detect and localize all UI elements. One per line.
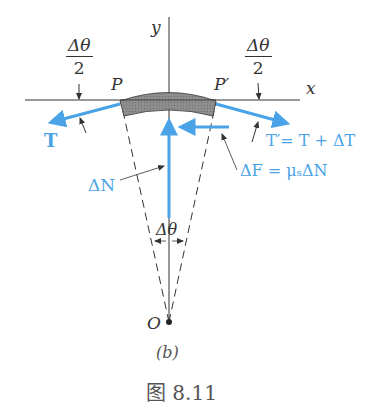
- figure-caption: 图 8.11: [146, 383, 217, 403]
- normal-force-leader: [120, 166, 164, 180]
- point-O-label: O: [147, 315, 161, 332]
- radial-line-right: [169, 102, 216, 322]
- half-angle-label-left: Δθ 2: [66, 37, 93, 77]
- tension-T-arrow: [52, 104, 120, 122]
- origin-point: [166, 319, 172, 325]
- x-axis-label: x: [306, 80, 316, 97]
- tension-T-prime-label: T′= T + ΔT: [266, 133, 355, 149]
- point-P-label: P: [111, 76, 122, 93]
- point-P-prime-label: P′: [214, 76, 229, 93]
- half-angle-arrow-left-bottom: [80, 118, 86, 133]
- subfigure-label: (b): [156, 345, 179, 361]
- radial-line-left: [121, 102, 169, 322]
- friction-force-leader: [222, 134, 237, 170]
- tension-T-prime-arrow: [216, 104, 286, 123]
- full-angle-label: Δθ: [156, 222, 177, 238]
- tension-T-label: T: [44, 132, 57, 150]
- friction-force-label: ΔF = μₛΔN: [240, 163, 328, 179]
- half-angle-arrow-right-bottom: [252, 122, 258, 142]
- half-angle-label-right: Δθ 2: [245, 37, 272, 77]
- half-angle-arrow-right-top: [258, 83, 259, 99]
- y-axis-label: y: [151, 19, 161, 36]
- normal-force-label: ΔN: [88, 177, 115, 194]
- belt-element: [120, 93, 216, 117]
